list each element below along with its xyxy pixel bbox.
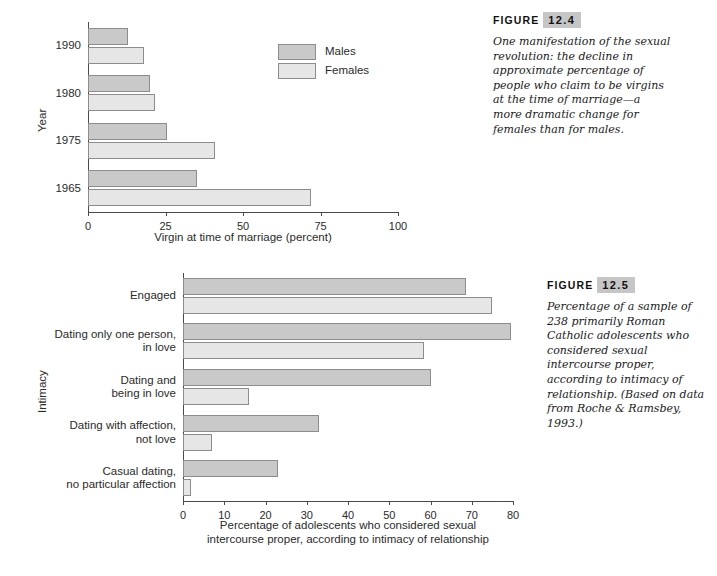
chart2-x-tick <box>183 501 184 505</box>
chart1-x-tick <box>321 212 322 216</box>
chart1-x-tick <box>88 212 89 216</box>
chart2-category-label-line: no particular affection <box>26 478 176 492</box>
figure-12-5-caption: FIGURE 12.5 Percentage of a sample of 23… <box>547 279 712 431</box>
chart2-category-label: Dating andbeing in love <box>26 374 176 401</box>
chart2-bar-females <box>183 479 191 496</box>
figure-12-5-caption-number: 12.5 <box>597 277 635 293</box>
chart1-category-label: 1975 <box>37 134 81 148</box>
chart2-x-tick <box>513 501 514 505</box>
figure-12-4-caption-number: 12.4 <box>543 12 581 28</box>
chart2-bar-males <box>183 415 319 432</box>
chart2-category-label-line: Casual dating, <box>26 465 176 479</box>
chart2-category-label-line: Dating with affection, <box>26 419 176 433</box>
chart1-category-label-line: 1980 <box>37 87 81 101</box>
chart1-x-tick <box>166 212 167 216</box>
chart2-x-axis-title: Percentage of adolescents who considered… <box>160 518 536 546</box>
chart2-x-axis-title-line1: Percentage of adolescents who considered… <box>160 518 536 532</box>
chart2-bar-males <box>183 460 278 477</box>
figure-12-4-caption-text: One manifestation of the sexual revoluti… <box>493 35 671 137</box>
figure-12-5: Intimacy 01020304050607080EngagedDating … <box>0 265 540 565</box>
chart1-x-tick <box>243 212 244 216</box>
chart2-x-axis-title-line2: intercourse proper, according to intimac… <box>160 532 536 546</box>
chart2-plot-area: 01020304050607080EngagedDating only one … <box>183 273 513 508</box>
figure-12-4-caption: FIGURE 12.4 One manifestation of the sex… <box>493 14 671 137</box>
figure-12-5-caption-heading: FIGURE 12.5 <box>547 279 712 291</box>
chart2-x-tick <box>431 501 432 505</box>
chart1-category-label-line: 1990 <box>37 39 81 53</box>
chart1-bar-males <box>88 170 197 187</box>
chart1-legend-label-males: Males <box>325 45 356 57</box>
chart2-category-label-line: Dating only one person, <box>26 328 176 342</box>
chart2-category-label: Casual dating,no particular affection <box>26 465 176 492</box>
figure-12-4-caption-label: FIGURE <box>493 14 539 26</box>
chart1-category-label: 1980 <box>37 87 81 101</box>
chart2-category-label: Dating only one person,in love <box>26 328 176 355</box>
chart2-category-label-line: Engaged <box>26 289 176 303</box>
chart1-legend-swatch-females <box>278 63 316 79</box>
figure-12-5-caption-text: Percentage of a sample of 238 primarily … <box>547 300 712 431</box>
chart2-bar-females <box>183 297 492 314</box>
chart2-bar-males <box>183 323 511 340</box>
chart2-bar-females <box>183 434 212 451</box>
figure-12-4-caption-heading: FIGURE 12.4 <box>493 14 671 26</box>
chart2-category-label-line: in love <box>26 341 176 355</box>
chart2-x-tick <box>348 501 349 505</box>
chart2-x-tick <box>307 501 308 505</box>
chart1-legend-swatch-males <box>278 44 316 60</box>
chart2-x-tick <box>472 501 473 505</box>
chart2-category-label-line: being in love <box>26 387 176 401</box>
chart2-x-tick <box>266 501 267 505</box>
chart2-x-tick <box>389 501 390 505</box>
chart1-bar-females <box>88 47 144 64</box>
chart2-category-label: Dating with affection,not love <box>26 419 176 446</box>
chart1-bar-males <box>88 123 167 140</box>
chart1-legend-label-females: Females <box>325 64 369 76</box>
chart2-bar-females <box>183 388 249 405</box>
chart1-bar-females <box>88 94 155 111</box>
chart1-bar-males <box>88 75 150 92</box>
chart1-category-label: 1990 <box>37 39 81 53</box>
chart2-category-label-line: Dating and <box>26 374 176 388</box>
chart2-bar-females <box>183 342 424 359</box>
chart1-x-tick <box>398 212 399 216</box>
chart1-category-label-line: 1965 <box>37 182 81 196</box>
chart1-y-axis-title: Year <box>36 109 48 132</box>
figure-12-5-caption-label: FIGURE <box>547 279 593 291</box>
chart1-x-axis-title: Virgin at time of marriage (percent) <box>88 230 398 244</box>
chart2-category-label-line: not love <box>26 433 176 447</box>
chart1-category-label: 1965 <box>37 182 81 196</box>
figure-12-4: Year 02550751001990198019751965 Males Fe… <box>0 0 480 250</box>
chart1-category-label-line: 1975 <box>37 134 81 148</box>
chart2-bar-males <box>183 369 431 386</box>
chart1-bar-females <box>88 189 311 206</box>
chart1-bar-females <box>88 142 215 159</box>
chart2-bar-males <box>183 278 466 295</box>
chart2-x-tick <box>224 501 225 505</box>
chart2-category-label: Engaged <box>26 289 176 303</box>
chart1-bar-males <box>88 28 128 45</box>
